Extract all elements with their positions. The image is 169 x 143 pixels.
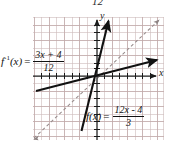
y-axis-label: y (100, 10, 104, 21)
label-f-inverse: f-1(x) = 3x + 4 12 (1, 50, 64, 73)
label-f-inverse-denominator: 12 (41, 62, 55, 73)
label-f-inverse-arg: (x) (10, 56, 22, 67)
x-axis-label: x (159, 67, 163, 78)
label-f: f(x) = 12x - 4 3 (86, 105, 144, 128)
label-f-inverse-equals: = (24, 56, 30, 67)
label-f-inverse-numerator: 3x + 4 (33, 50, 63, 61)
label-f-equals: = (103, 111, 109, 122)
label-f-inverse-fraction: 3x + 4 12 (33, 50, 63, 73)
label-f-fraction: 12x - 4 3 (113, 105, 145, 128)
label-f-numerator: 12x - 4 (113, 105, 145, 116)
label-f-inverse-superscript: -1 (4, 55, 10, 62)
label-f-arg: (x) (89, 111, 101, 122)
label-f-denominator: 3 (124, 117, 133, 128)
top-clipped-number: 12 (92, 0, 103, 7)
